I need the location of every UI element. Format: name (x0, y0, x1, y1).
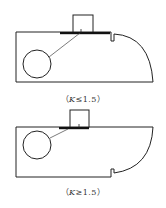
bottom-test-block-diagram (0, 0, 166, 208)
bottom-probe-box (70, 110, 89, 127)
bottom-beam-line (50, 129, 68, 138)
bottom-caption: （K≥1.5） (0, 186, 166, 197)
caption-paren-close: ） (97, 188, 106, 197)
bottom-block-outline (16, 127, 153, 177)
bottom-reflector-hole (23, 131, 51, 159)
caption-condition: ≥1.5 (76, 188, 97, 197)
bottom-probe-contact-bar (59, 127, 89, 129)
caption-paren-open: （ (61, 188, 70, 197)
